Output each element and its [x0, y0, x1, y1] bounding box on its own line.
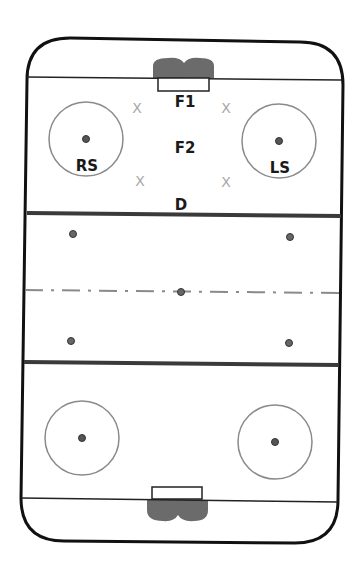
neutral-dot-bottom-left: [68, 338, 75, 345]
neutral-dot-bottom-right: [286, 340, 293, 347]
hockey-rink-diagram: X X X X F1 F2 RS LS D: [0, 0, 363, 569]
label-f1: F1: [175, 93, 196, 111]
center-ice-dot: [178, 289, 185, 296]
x-marker-bottom-right: X: [221, 174, 231, 190]
neutral-dot-top-right: [287, 234, 294, 241]
neutral-dot-top-left: [70, 231, 77, 238]
bottom-right-faceoff-dot: [272, 439, 279, 446]
label-rs: RS: [76, 157, 98, 175]
bottom-left-faceoff-dot: [79, 435, 86, 442]
x-marker-top-left: X: [132, 100, 142, 116]
x-marker-bottom-left: X: [135, 173, 145, 189]
x-marker-top-right: X: [221, 100, 231, 116]
bottom-goal-net: [152, 487, 202, 499]
label-d: D: [175, 196, 187, 214]
label-f2: F2: [175, 139, 196, 157]
label-ls: LS: [270, 159, 290, 177]
top-goal-net: [158, 78, 209, 91]
top-left-faceoff-dot: [83, 136, 90, 143]
top-right-faceoff-dot: [276, 138, 283, 145]
